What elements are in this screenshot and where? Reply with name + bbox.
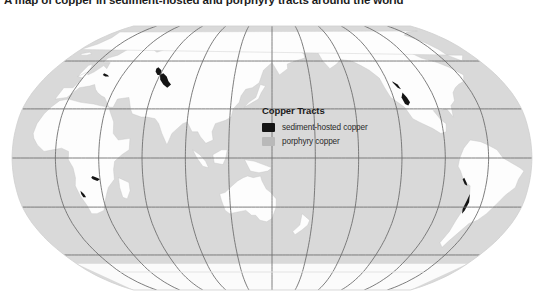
legend-swatch-porphyry xyxy=(262,137,275,146)
legend-label-porphyry: porphyry copper xyxy=(282,137,340,146)
legend-item-porphyry: porphyry copper xyxy=(262,137,384,146)
map-legend: Copper Tracts sediment-hosted copper por… xyxy=(262,105,384,151)
page-title: A map of copper in sediment-hosted and p… xyxy=(4,0,404,7)
legend-swatch-sediment-hosted xyxy=(262,123,275,132)
world-map-canvas xyxy=(0,18,542,298)
legend-label-sediment-hosted: sediment-hosted copper xyxy=(282,123,368,132)
legend-title: Copper Tracts xyxy=(262,105,384,116)
copper-tracts-figure: A map of copper in sediment-hosted and p… xyxy=(0,0,542,298)
legend-item-sediment-hosted: sediment-hosted copper xyxy=(262,123,384,132)
world-map xyxy=(0,18,542,298)
